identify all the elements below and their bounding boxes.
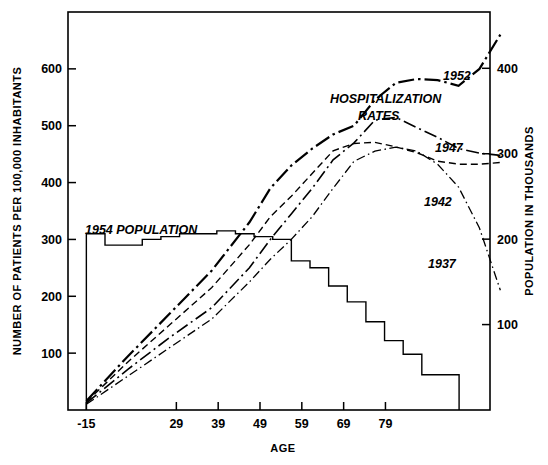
svg-text:79: 79 [378, 417, 392, 431]
series-1954-population [86, 231, 459, 410]
y-axis-right-ticks [482, 68, 490, 324]
svg-text:200: 200 [497, 233, 518, 247]
y-axis-left-ticks [68, 69, 76, 353]
svg-text:500: 500 [41, 119, 62, 133]
svg-text:-15: -15 [77, 417, 95, 431]
x-axis-ticks [86, 402, 385, 410]
series-label-1942: 1942 [424, 195, 452, 209]
svg-text:300: 300 [497, 147, 518, 161]
y-axis-left-labels: 100 200 300 400 500 600 [41, 62, 62, 360]
y-axis-right-labels: 100 200 300 400 [497, 62, 518, 332]
hospitalization-rates-chart: 100 200 300 400 500 600 100 200 300 400 … [0, 0, 548, 465]
svg-text:400: 400 [497, 62, 518, 76]
svg-text:59: 59 [295, 417, 309, 431]
svg-text:100: 100 [497, 318, 518, 332]
x-axis-labels: -15 29 39 49 59 69 79 [77, 417, 392, 431]
series-label-1937: 1937 [428, 257, 457, 271]
annotation-hospitalization: HOSPITALIZATION [330, 92, 442, 106]
series-1937 [86, 147, 500, 404]
plot-frame [68, 12, 490, 410]
x-axis-title: AGE [270, 442, 295, 454]
series-label-1947: 1947 [435, 141, 464, 155]
series-1952 [86, 35, 500, 401]
svg-text:200: 200 [41, 290, 62, 304]
y-axis-right-title: POPULATION IN THOUSANDS [523, 126, 535, 296]
svg-text:69: 69 [337, 417, 351, 431]
svg-text:100: 100 [41, 347, 62, 361]
annotation-rates: RATES [358, 109, 400, 123]
series-label-1952: 1952 [443, 69, 471, 83]
chart-container: 100 200 300 400 500 600 100 200 300 400 … [0, 0, 548, 465]
series-1947 [86, 142, 500, 402]
svg-text:39: 39 [211, 417, 225, 431]
svg-text:600: 600 [41, 62, 62, 76]
annotation-1954-population: 1954 POPULATION [85, 223, 198, 237]
svg-text:49: 49 [253, 417, 267, 431]
svg-text:400: 400 [41, 176, 62, 190]
y-axis-left-title: NUMBER OF PATIENTS PER 100,000 INHABITAN… [11, 67, 23, 356]
svg-text:300: 300 [41, 233, 62, 247]
svg-text:29: 29 [169, 417, 183, 431]
